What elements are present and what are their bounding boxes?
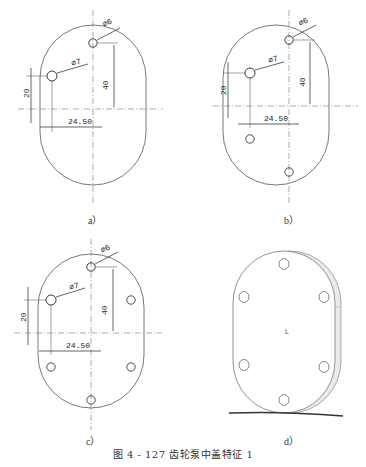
dim-20: 20 — [22, 88, 31, 98]
plate-face — [233, 251, 335, 413]
svg-text:24.50: 24.50 — [264, 114, 288, 123]
dim-24-50: 24.50 — [68, 117, 92, 126]
panel-c-sketch: ∅6 ∅7 40 20 24.50 — [0, 225, 183, 437]
panel-a-sketch: ∅6 ∅7 40 20 24.50 — [0, 0, 183, 225]
svg-text:24.50: 24.50 — [66, 341, 90, 350]
svg-text:∅6: ∅6 — [99, 243, 112, 255]
panel-d-3d-view: L — [183, 225, 366, 437]
panel-b-sketch: ∅6 ∅7 40 20 24.50 — [183, 0, 366, 225]
dim-40: 40 — [101, 80, 110, 90]
svg-text:∅6: ∅6 — [297, 16, 310, 28]
svg-text:20: 20 — [219, 85, 228, 95]
center-mark: L — [285, 328, 289, 335]
dim-dia-6: ∅6 — [101, 17, 114, 29]
svg-text:20: 20 — [19, 312, 28, 322]
svg-text:40: 40 — [100, 305, 109, 315]
figure-caption: 图 4 - 127 齿轮泵中盖特征 1 — [0, 446, 366, 461]
svg-text:∅7: ∅7 — [267, 54, 279, 65]
svg-text:40: 40 — [298, 77, 307, 87]
